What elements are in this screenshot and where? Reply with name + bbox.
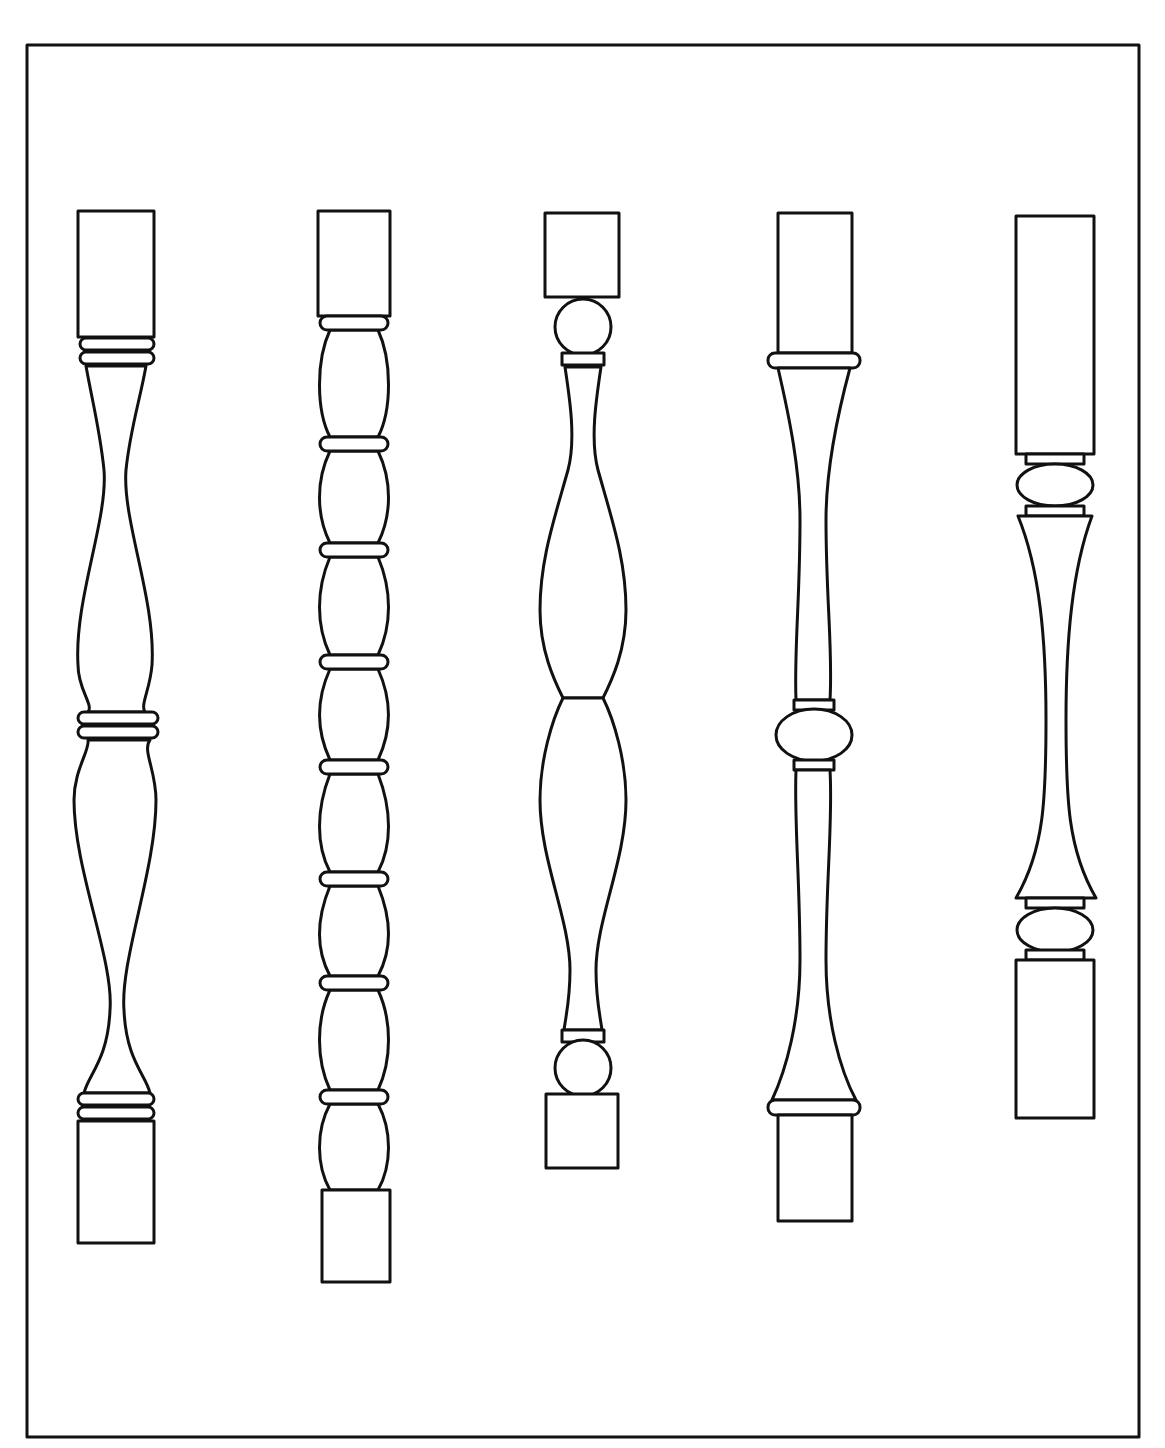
baluster-2 [318, 211, 390, 1282]
baluster-drawing [0, 0, 1165, 1448]
baluster-3 [540, 213, 626, 1168]
baluster-5 [1016, 216, 1096, 1118]
baluster-1 [74, 211, 158, 1243]
baluster-4 [768, 213, 860, 1221]
